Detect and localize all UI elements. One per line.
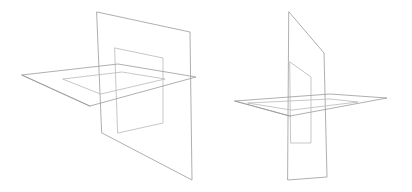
canvas-background [0, 0, 412, 192]
wireframe-illustration-canvas: Intersecting Planes Wireframe Illustrati… [0, 0, 412, 192]
